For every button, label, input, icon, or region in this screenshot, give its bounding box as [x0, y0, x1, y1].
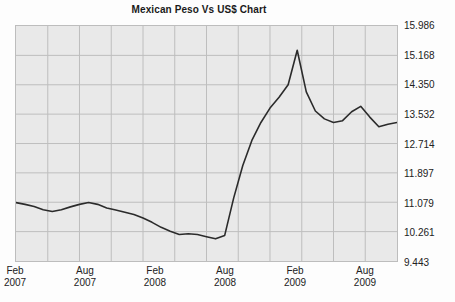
x-axis-tick-label: Aug2009 — [354, 265, 376, 289]
x-axis-tick-label: Aug2008 — [214, 265, 236, 289]
y-axis-tick-label: 10.261 — [404, 227, 435, 238]
x-axis: Feb2007Aug2007Feb2008Aug2008Feb2009Aug20… — [15, 265, 398, 299]
x-tick-month: Aug — [214, 265, 236, 277]
data-series-line — [16, 26, 397, 261]
y-axis-tick-label: 9.443 — [404, 257, 429, 268]
chart-container: Mexican Peso Vs US$ Chart 15.98615.16814… — [0, 0, 455, 302]
chart-title: Mexican Peso Vs US$ Chart — [0, 4, 398, 15]
y-axis-tick-label: 12.714 — [404, 138, 435, 149]
x-tick-month: Feb — [284, 265, 306, 277]
x-tick-year: 2007 — [4, 277, 26, 289]
x-tick-month: Aug — [354, 265, 376, 277]
y-axis-tick-label: 14.350 — [404, 79, 435, 90]
x-axis-tick-label: Feb2008 — [144, 265, 166, 289]
x-tick-year: 2008 — [214, 277, 236, 289]
x-tick-month: Feb — [4, 265, 26, 277]
x-tick-year: 2009 — [354, 277, 376, 289]
y-axis: 15.98615.16814.35013.53212.71411.89711.0… — [404, 25, 454, 262]
y-axis-tick-label: 15.986 — [404, 20, 435, 31]
y-axis-tick-label: 13.532 — [404, 108, 435, 119]
x-axis-tick-label: Aug2007 — [74, 265, 96, 289]
x-tick-year: 2008 — [144, 277, 166, 289]
y-axis-tick-label: 11.079 — [404, 197, 434, 208]
x-tick-year: 2009 — [284, 277, 306, 289]
x-tick-year: 2007 — [74, 277, 96, 289]
y-axis-tick-label: 15.168 — [404, 49, 435, 60]
plot-area — [15, 25, 398, 262]
x-tick-month: Aug — [74, 265, 96, 277]
x-tick-month: Feb — [144, 265, 166, 277]
y-axis-tick-label: 11.897 — [404, 168, 434, 179]
x-axis-tick-label: Feb2009 — [284, 265, 306, 289]
x-axis-tick-label: Feb2007 — [4, 265, 26, 289]
